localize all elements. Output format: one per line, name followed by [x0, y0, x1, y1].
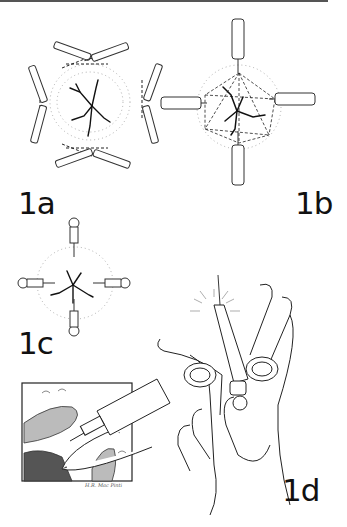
- panel-1a: 1a: [0, 0, 170, 180]
- panel-1b: 1b: [165, 25, 335, 195]
- panel-1c: 1c: [15, 215, 145, 355]
- panel-label-1c: 1c: [18, 328, 53, 359]
- panel-1d-illustration: [150, 275, 300, 515]
- artist-signature: H.R. Mac Pinti: [85, 482, 122, 488]
- panel-1b-illustration: [165, 25, 335, 185]
- panel-label-1b: 1b: [295, 188, 332, 219]
- panel-1a-illustration: [0, 0, 170, 180]
- panel-1d: 1d: [150, 275, 347, 527]
- inset-cross-section: H.R. Mac Pinti: [22, 383, 152, 483]
- panel-label-1d: 1d: [282, 475, 319, 506]
- panel-1c-illustration: [15, 215, 135, 335]
